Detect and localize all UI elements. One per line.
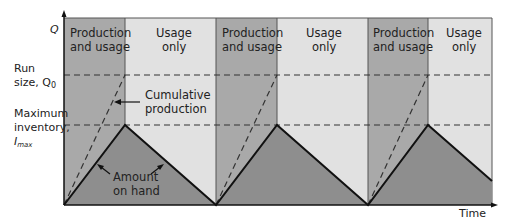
phase-label-1b: and usage bbox=[70, 40, 130, 54]
max-inventory-label-line3: Imax bbox=[14, 135, 33, 149]
cumulative-label-line2: production bbox=[145, 102, 207, 116]
phase-label-6b: only bbox=[452, 40, 477, 54]
run-size-label-line1: Run bbox=[14, 62, 35, 75]
amount-label-line1: Amount bbox=[113, 170, 159, 184]
phase-label-3a: Production bbox=[222, 26, 283, 40]
phase-label-2a: Usage bbox=[156, 26, 192, 40]
max-inventory-label-line2: inventory, bbox=[14, 121, 70, 134]
max-inventory-label-line1: Maximum bbox=[14, 107, 68, 120]
phase-label-6a: Usage bbox=[446, 26, 482, 40]
phase-label-5a: Production bbox=[373, 26, 434, 40]
run-size-label-line2: size, Q0 bbox=[14, 76, 56, 90]
cumulative-label-line1: Cumulative bbox=[145, 88, 211, 102]
phase-label-5b: and usage bbox=[373, 40, 433, 54]
phase-label-4a: Usage bbox=[306, 26, 342, 40]
y-axis-arrow-icon bbox=[62, 10, 67, 17]
x-axis-arrow-icon bbox=[491, 203, 498, 208]
phase-label-1a: Production bbox=[70, 26, 131, 40]
phase-label-2b: only bbox=[162, 40, 187, 54]
x-axis-label: Time bbox=[458, 207, 486, 220]
production-inventory-diagram: Q Time Run size, Q0 Maximum inventory, I… bbox=[0, 0, 507, 222]
phase-label-4b: only bbox=[312, 40, 337, 54]
y-axis-label: Q bbox=[50, 23, 59, 36]
amount-label-line2: on hand bbox=[113, 184, 160, 198]
phase-label-3b: and usage bbox=[222, 40, 282, 54]
